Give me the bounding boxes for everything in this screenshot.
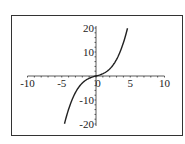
y-tick-label: -10	[79, 94, 94, 106]
y-tick-label: -20	[79, 118, 94, 130]
x-tick-label: 10	[159, 77, 171, 89]
y-tick-label: 20	[83, 22, 95, 34]
plot-area: -10-50510-20-101020	[0, 0, 185, 144]
x-tick-label: 0	[95, 77, 101, 89]
x-tick-label: -10	[20, 77, 35, 89]
x-tick-label: 5	[128, 77, 134, 89]
y-tick-label: 10	[83, 46, 95, 58]
x-tick-label: -5	[57, 77, 67, 89]
